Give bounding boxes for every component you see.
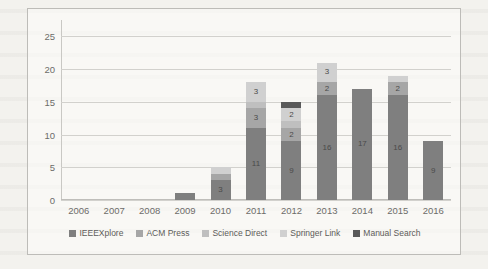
chart-container: 0510152025 311339221623171629 2006200720… — [27, 8, 461, 255]
bar-column-2008[interactable] — [132, 20, 167, 200]
bar-column-2011[interactable]: 1133 — [238, 20, 273, 200]
stacked-bar[interactable]: 922 — [281, 102, 301, 200]
x-axis-tick-label-2010: 2010 — [203, 205, 238, 216]
bar-column-2014[interactable]: 17 — [345, 20, 380, 200]
bar-segment-ieeexplore[interactable]: 3 — [211, 180, 231, 200]
chart-legend: IEEEXploreACM PressScience DirectSpringe… — [28, 228, 462, 238]
y-axis-tick-label: 15 — [44, 96, 55, 107]
legend-item-springer-link[interactable]: Springer Link — [280, 228, 340, 238]
stacked-bar[interactable]: 17 — [352, 89, 372, 200]
stacked-bar[interactable]: 162 — [388, 76, 408, 200]
x-axis-tick-label-2015: 2015 — [380, 205, 415, 216]
stacked-bar[interactable] — [175, 193, 195, 200]
stacked-bar[interactable]: 3 — [211, 167, 231, 200]
gridline — [61, 200, 451, 201]
legend-swatch-icon — [353, 230, 360, 237]
x-axis-tick-label-2007: 2007 — [96, 205, 131, 216]
stacked-bar[interactable]: 1133 — [246, 82, 266, 200]
legend-label: Manual Search — [363, 228, 420, 238]
plot-wrapper: 0510152025 311339221623171629 2006200720… — [28, 9, 462, 256]
legend-swatch-icon — [280, 230, 287, 237]
bar-segment-ieeexplore[interactable]: 9 — [281, 141, 301, 200]
bar-column-2010[interactable]: 3 — [203, 20, 238, 200]
bar-column-2012[interactable]: 922 — [274, 20, 309, 200]
legend-item-manual-search[interactable]: Manual Search — [353, 228, 420, 238]
legend-item-science-direct[interactable]: Science Direct — [202, 228, 267, 238]
legend-label: Science Direct — [212, 228, 267, 238]
y-axis-tick-label: 10 — [44, 129, 55, 140]
bar-segment-ieeexplore[interactable]: 16 — [317, 95, 337, 200]
x-axis-tick-label-2016: 2016 — [416, 205, 451, 216]
bar-segment-acm-press[interactable]: 3 — [246, 108, 266, 128]
x-axis-tick-label-2012: 2012 — [274, 205, 309, 216]
bar-segment-ieeexplore[interactable] — [175, 193, 195, 200]
bar-series-group: 311339221623171629 — [61, 20, 451, 200]
bar-segment-springer-link[interactable]: 3 — [317, 63, 337, 83]
bar-segment-springer-link[interactable]: 2 — [281, 108, 301, 121]
stacked-bar[interactable]: 1623 — [317, 63, 337, 200]
bar-column-2016[interactable]: 9 — [416, 20, 451, 200]
legend-label: IEEEXplore — [79, 228, 123, 238]
legend-item-ieeexplore[interactable]: IEEEXplore — [69, 228, 123, 238]
bar-column-2009[interactable] — [167, 20, 202, 200]
legend-swatch-icon — [69, 230, 76, 237]
y-axis-tick-label: 20 — [44, 64, 55, 75]
y-axis-tick-label: 5 — [50, 162, 55, 173]
bar-segment-acm-press[interactable]: 2 — [388, 82, 408, 95]
bar-segment-acm-press[interactable]: 2 — [281, 128, 301, 141]
legend-swatch-icon — [136, 230, 143, 237]
plot-area: 0510152025 311339221623171629 — [61, 20, 451, 200]
legend-item-acm-press[interactable]: ACM Press — [136, 228, 189, 238]
bar-segment-springer-link[interactable]: 3 — [246, 82, 266, 102]
bar-segment-ieeexplore[interactable]: 17 — [352, 89, 372, 200]
legend-label: Springer Link — [290, 228, 340, 238]
bar-segment-ieeexplore[interactable]: 11 — [246, 128, 266, 200]
bar-segment-ieeexplore[interactable]: 9 — [423, 141, 443, 200]
stacked-bar[interactable]: 9 — [423, 141, 443, 200]
x-axis-tick-label-2009: 2009 — [167, 205, 202, 216]
legend-swatch-icon — [202, 230, 209, 237]
x-axis-tick-label-2013: 2013 — [309, 205, 344, 216]
bar-column-2013[interactable]: 1623 — [309, 20, 344, 200]
bar-column-2015[interactable]: 162 — [380, 20, 415, 200]
legend-label: ACM Press — [146, 228, 189, 238]
x-axis-tick-labels: 2006200720082009201020112012201320142015… — [61, 205, 451, 216]
x-axis-tick-label-2008: 2008 — [132, 205, 167, 216]
bar-column-2007[interactable] — [96, 20, 131, 200]
x-axis-tick-label-2011: 2011 — [238, 205, 273, 216]
y-axis-tick-label: 0 — [50, 195, 55, 206]
bar-segment-acm-press[interactable]: 2 — [317, 82, 337, 95]
bar-column-2006[interactable] — [61, 20, 96, 200]
y-axis-tick-label: 25 — [44, 31, 55, 42]
x-axis-tick-label-2006: 2006 — [61, 205, 96, 216]
bar-segment-ieeexplore[interactable]: 16 — [388, 95, 408, 200]
x-axis-tick-label-2014: 2014 — [345, 205, 380, 216]
